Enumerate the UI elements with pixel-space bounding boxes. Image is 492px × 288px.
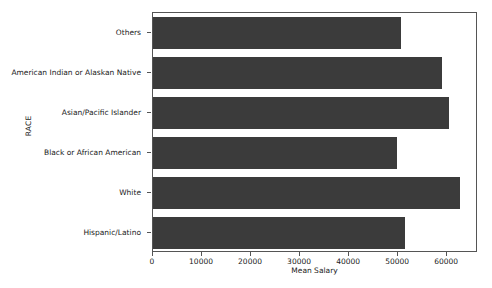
bar <box>153 177 460 208</box>
bar <box>153 57 442 88</box>
x-tick-mark <box>299 252 300 256</box>
y-tick-label: Hispanic/Latino <box>0 228 141 237</box>
bar <box>153 17 401 48</box>
x-tick-label: 50000 <box>385 257 409 266</box>
x-tick-label: 20000 <box>238 257 262 266</box>
y-tick-mark <box>147 232 151 233</box>
x-tick-mark <box>201 252 202 256</box>
y-tick-label: American Indian or Alaskan Native <box>0 68 141 77</box>
y-tick-label: Asian/Pacific Islander <box>0 108 141 117</box>
y-tick-label: White <box>0 188 141 197</box>
x-tick-label: 60000 <box>434 257 458 266</box>
y-tick-mark <box>147 112 151 113</box>
x-tick-mark <box>152 252 153 256</box>
y-tick-label: Black or African American <box>0 148 141 157</box>
x-tick-label: 10000 <box>189 257 213 266</box>
bar-row <box>153 97 476 128</box>
plot-area <box>152 12 477 252</box>
bar-row <box>153 217 476 248</box>
x-tick-label: 30000 <box>287 257 311 266</box>
x-axis-label: Mean Salary <box>152 266 477 275</box>
bar-chart-figure: RACE OthersAmerican Indian or Alaskan Na… <box>0 0 492 288</box>
bar-row <box>153 177 476 208</box>
x-tick-mark <box>397 252 398 256</box>
y-axis-tick-labels: OthersAmerican Indian or Alaskan NativeA… <box>0 0 147 288</box>
x-tick-mark <box>250 252 251 256</box>
bar <box>153 137 397 168</box>
x-tick-label: 0 <box>150 257 155 266</box>
bar-series <box>153 13 476 251</box>
x-tick-mark <box>348 252 349 256</box>
x-tick-mark <box>446 252 447 256</box>
bar-row <box>153 57 476 88</box>
y-tick-mark <box>147 152 151 153</box>
y-tick-mark <box>147 32 151 33</box>
y-tick-label: Others <box>0 28 141 37</box>
y-tick-mark <box>147 192 151 193</box>
y-tick-mark <box>147 72 151 73</box>
bar-row <box>153 137 476 168</box>
bar <box>153 217 405 248</box>
bar <box>153 97 449 128</box>
bar-row <box>153 17 476 48</box>
x-tick-label: 40000 <box>336 257 360 266</box>
